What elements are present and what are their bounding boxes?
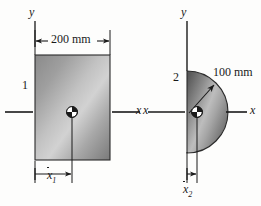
- shape1-centroid-marker: [67, 107, 78, 118]
- shape1-part-number: 1: [22, 79, 28, 91]
- shape1-width-dimension-label: 200 mm: [51, 33, 91, 45]
- shape2-part-number: 2: [173, 71, 179, 83]
- shape1-xbar-subscript: 1: [52, 176, 56, 185]
- statics-figure: y 200 mm 1 x x1 y 2 100 mm x x x2: [0, 0, 261, 206]
- shape2-radius-dimension-label: 100 mm: [213, 66, 253, 78]
- figure-vector-canvas: [0, 0, 261, 206]
- shape2-y-axis-label: y: [181, 6, 186, 18]
- shape2-xbar-subscript: 2: [188, 190, 192, 199]
- shape2-group: [148, 21, 247, 183]
- shape2-xbar-label: x2: [183, 180, 192, 199]
- shape1-x-axis-label: x: [143, 104, 148, 116]
- shape1-xbar-symbol: x: [47, 168, 52, 182]
- shape2-xbar-symbol: x: [183, 182, 188, 196]
- shape2-centroid-marker: [192, 107, 203, 118]
- shape1-y-axis-label: y: [29, 6, 34, 18]
- shape1-xbar-label: x1: [47, 166, 56, 185]
- shape2-x-axis-right-label: x: [250, 104, 255, 116]
- shape2-x-axis-left-label: x: [136, 104, 141, 116]
